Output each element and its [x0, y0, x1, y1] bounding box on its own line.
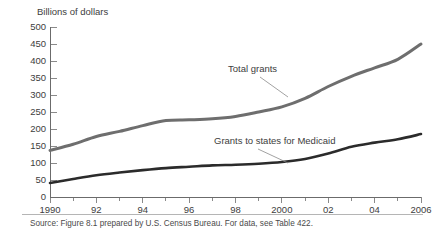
y-tick-label: 300	[30, 89, 46, 100]
y-axis-tick-group: 050100150200250300350400450500	[30, 21, 57, 202]
y-tick-label: 350	[30, 72, 46, 83]
y-tick-label: 200	[30, 123, 46, 134]
y-tick-label: 100	[30, 157, 46, 168]
x-tick-label: 92	[91, 204, 102, 215]
y-tick-label: 50	[35, 174, 46, 185]
annotation-label-total-grants: Total grants	[228, 63, 277, 74]
annotation-leader-line	[258, 149, 288, 163]
x-tick-label: 2006	[410, 204, 431, 215]
x-axis-tick-group: 199092949698200002042006	[39, 197, 431, 215]
y-tick-label: 450	[30, 38, 46, 49]
y-tick-label: 500	[30, 21, 46, 32]
annotation-group: Total grantsGrants to states for Medicai…	[214, 63, 335, 163]
source-caption: Source: Figure 8.1 prepared by U.S. Cens…	[30, 219, 313, 228]
annotation-label-grants-to-states-for-medicaid: Grants to states for Medicaid	[214, 135, 335, 146]
annotation-leader-line	[260, 77, 288, 97]
x-tick-label: 96	[184, 204, 195, 215]
x-tick-label: 2000	[271, 204, 292, 215]
figure-container: Billions of dollars 05010015020025030035…	[0, 0, 445, 238]
x-tick-label: 98	[230, 204, 241, 215]
y-tick-label: 250	[30, 106, 46, 117]
x-tick-label: 94	[137, 204, 148, 215]
x-tick-label: 04	[369, 204, 380, 215]
y-tick-label: 400	[30, 55, 46, 66]
y-tick-label: 0	[41, 191, 46, 202]
x-tick-label: 02	[323, 204, 334, 215]
x-tick-label: 1990	[39, 204, 60, 215]
y-tick-label: 150	[30, 140, 46, 151]
line-chart: Billions of dollars 05010015020025030035…	[0, 0, 445, 238]
y-axis-title: Billions of dollars	[37, 6, 109, 17]
